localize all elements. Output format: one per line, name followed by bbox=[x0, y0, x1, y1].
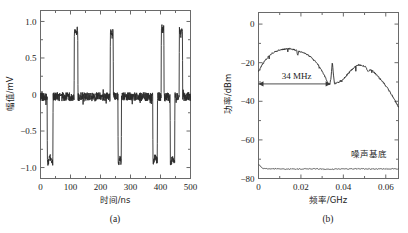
x-tick-label: 200 bbox=[94, 182, 108, 192]
panel-b-x-axis-title: 频率/GHz bbox=[309, 195, 348, 205]
panel-b-noise-floor-trace bbox=[259, 164, 399, 169]
y-tick-label: −80 bbox=[240, 174, 255, 184]
x-tick-label: 0.02 bbox=[293, 182, 309, 192]
y-tick-label: 0 bbox=[250, 19, 255, 29]
panel-a-waveform-trace bbox=[41, 25, 191, 166]
y-tick-label: −60 bbox=[240, 135, 255, 145]
panel-b-tick-labels: 00.020.040.060−20−40−60−80 bbox=[240, 19, 394, 191]
x-tick-label: 300 bbox=[124, 182, 138, 192]
x-tick-label: 0.06 bbox=[378, 182, 394, 192]
y-tick-label: −1.0 bbox=[20, 163, 37, 173]
panel-a-plot: 01002003004005001.00.50−0.5−1.0 时间/ns 幅值… bbox=[0, 0, 204, 233]
y-tick-label: −0.5 bbox=[20, 126, 37, 136]
bandwidth-arrow bbox=[259, 81, 331, 86]
panel-b-spectrum-trace bbox=[259, 48, 399, 107]
panel-b-plot: 00.020.040.060−20−40−60−80 34 MHz 噪声基底 频… bbox=[204, 0, 408, 233]
y-tick-label: 1.0 bbox=[25, 17, 37, 27]
panel-b-y-axis-title: 功率/dBm bbox=[223, 74, 233, 114]
y-tick-label: −20 bbox=[240, 58, 255, 68]
x-tick-label: 500 bbox=[184, 182, 198, 192]
x-tick-label: 100 bbox=[64, 182, 78, 192]
panel-a: 01002003004005001.00.50−0.5−1.0 时间/ns 幅值… bbox=[0, 0, 204, 233]
bandwidth-label: 34 MHz bbox=[282, 71, 312, 81]
panel-a-y-axis-title: 幅值/mV bbox=[5, 76, 15, 111]
panel-b-caption: (b) bbox=[322, 214, 333, 225]
y-tick-label: −40 bbox=[240, 96, 255, 106]
noise-floor-label: 噪声基底 bbox=[351, 149, 387, 159]
x-tick-label: 0 bbox=[256, 182, 261, 192]
panel-a-x-axis-title: 时间/ns bbox=[100, 195, 131, 205]
panel-a-caption: (a) bbox=[110, 214, 121, 225]
x-tick-label: 0 bbox=[38, 182, 43, 192]
y-tick-label: 0.5 bbox=[25, 53, 37, 63]
y-tick-label: 0 bbox=[32, 90, 37, 100]
x-tick-label: 0.04 bbox=[335, 182, 351, 192]
figure-container: 01002003004005001.00.50−0.5−1.0 时间/ns 幅值… bbox=[0, 0, 408, 233]
panel-b: 00.020.040.060−20−40−60−80 34 MHz 噪声基底 频… bbox=[204, 0, 408, 233]
x-tick-label: 400 bbox=[154, 182, 168, 192]
